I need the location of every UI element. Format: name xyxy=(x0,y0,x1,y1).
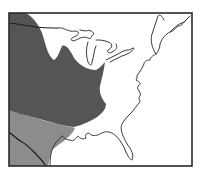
map-canvas xyxy=(0,0,201,176)
